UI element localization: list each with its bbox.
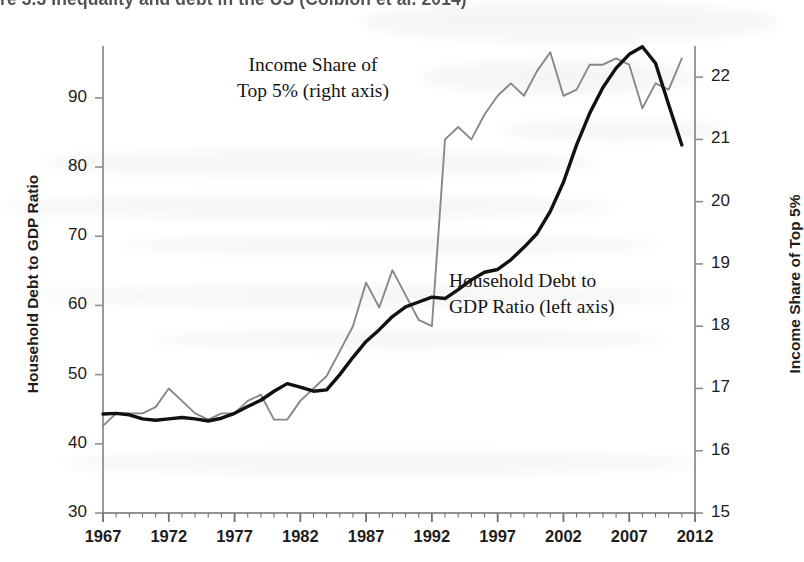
x-tick-2002: 2002 — [528, 527, 598, 546]
left-tick-90: 90 — [47, 87, 87, 107]
left-tick-60: 60 — [47, 294, 87, 314]
left-tick-80: 80 — [47, 156, 87, 176]
x-tick-1967: 1967 — [68, 527, 138, 546]
x-tick-1982: 1982 — [265, 527, 335, 546]
right-tick-18: 18 — [711, 315, 751, 335]
annotation-household-debt-line1: Household Debt to — [449, 268, 615, 294]
annotation-income-share: Income Share of Top 5% (right axis) — [237, 52, 389, 103]
right-tick-16: 16 — [711, 440, 751, 460]
x-tick-1987: 1987 — [331, 527, 401, 546]
x-tick-2007: 2007 — [594, 527, 664, 546]
x-axis-ticks — [103, 513, 695, 522]
annotation-household-debt: Household Debt to GDP Ratio (left axis) — [449, 268, 615, 319]
x-tick-1972: 1972 — [134, 527, 204, 546]
right-tick-17: 17 — [711, 377, 751, 397]
left-tick-30: 30 — [47, 502, 87, 522]
series-line-income-share — [103, 52, 682, 426]
left-axis-ticks — [95, 98, 103, 513]
left-axis-title: Household Debt to GDP Ratio — [24, 154, 42, 414]
right-tick-19: 19 — [711, 253, 751, 273]
x-tick-1977: 1977 — [200, 527, 270, 546]
x-tick-2012: 2012 — [660, 527, 730, 546]
right-axis-title: Income Share of Top 5% — [786, 154, 804, 414]
annotation-income-share-line1: Income Share of — [237, 52, 389, 78]
right-tick-15: 15 — [711, 502, 751, 522]
left-tick-70: 70 — [47, 225, 87, 245]
right-tick-20: 20 — [711, 191, 751, 211]
x-tick-1992: 1992 — [397, 527, 467, 546]
left-tick-50: 50 — [47, 364, 87, 384]
right-tick-22: 22 — [711, 66, 751, 86]
left-tick-40: 40 — [47, 433, 87, 453]
series-line-household-debt — [103, 47, 682, 421]
annotation-household-debt-line2: GDP Ratio (left axis) — [449, 294, 615, 320]
right-axis-ticks — [695, 77, 703, 513]
annotation-income-share-line2: Top 5% (right axis) — [237, 78, 389, 104]
right-tick-21: 21 — [711, 128, 751, 148]
x-tick-1997: 1997 — [463, 527, 533, 546]
